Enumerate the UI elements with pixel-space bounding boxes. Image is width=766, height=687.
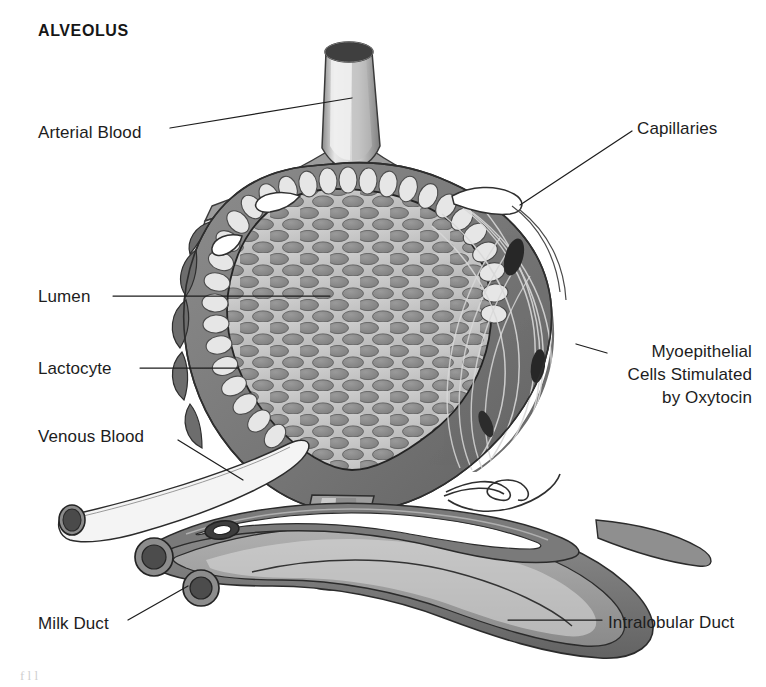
alveolus-body [172,160,580,520]
label-myoepithelial-cells: Myoepithelial Cells Stimulated by Oxytoc… [552,340,752,409]
label-intralobular-duct: Intralobular Duct [608,611,734,634]
duct-system [135,503,711,658]
label-myoepithelial-line-3: by Oxytocin [552,386,752,409]
label-arterial-blood: Arterial Blood [38,121,141,144]
label-myoepithelial-line-2: Cells Stimulated [552,363,752,386]
venous-lumen-opening [63,509,81,531]
capillary-loop [444,474,560,511]
label-capillaries: Capillaries [637,117,717,140]
leader-capillaries [520,131,632,205]
leader-milk-duct [128,586,188,620]
label-lumen: Lumen [38,285,90,308]
label-milk-duct: Milk Duct [38,612,109,635]
page-title: ALVEOLUS [38,22,129,40]
milk-duct-lumen [190,577,212,599]
milk-duct-lumen [142,545,166,569]
label-venous-blood: Venous Blood [38,425,144,448]
alveolus-diagram: ALVEOLUS Arterial Blood Capillaries Lume… [0,0,766,687]
label-myoepithelial-line-1: Myoepithelial [552,340,752,363]
label-lactocyte: Lactocyte [38,357,112,380]
caption-fragment: f l l [20,668,38,684]
